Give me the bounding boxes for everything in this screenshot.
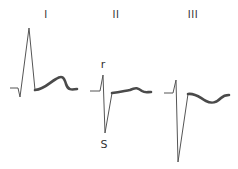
lead-i-label: I [44, 10, 47, 20]
lead-iii-trace [164, 80, 229, 162]
lead-iii-label: III [188, 10, 198, 20]
lead-ii-trace [90, 75, 151, 133]
r-wave-label: r [101, 59, 106, 70]
ecg-diagram [0, 0, 238, 169]
lead-ii-label: II [113, 10, 120, 20]
lead-i-trace [10, 28, 77, 97]
s-wave-label: S [101, 139, 108, 150]
